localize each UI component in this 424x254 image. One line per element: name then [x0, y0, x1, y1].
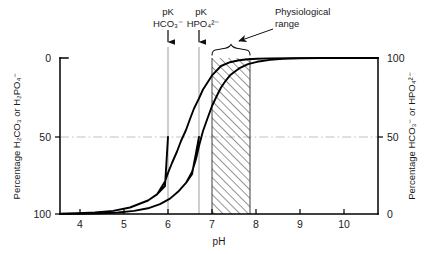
x-tick-label-7: 7	[209, 218, 215, 230]
y-label-right-100: 100	[387, 52, 405, 64]
physiological-range-line2: range	[275, 18, 299, 29]
right-axis-title: Percentage HCO₃⁻ or HPO₄²⁻	[406, 72, 417, 200]
pk-hco3-label-line2: HCO₃⁻	[153, 18, 183, 29]
pk-hpo4-label-line1: pK	[195, 6, 207, 17]
pk-hpo4-label-line2: HPO₄²⁻	[187, 18, 220, 29]
x-tick-label-10: 10	[338, 218, 350, 230]
y-label-right-50: 50	[387, 131, 399, 143]
y-label-left-50: 50	[39, 131, 51, 143]
x-tick-label-6: 6	[165, 218, 171, 230]
ph-titration-chart: 4 5 6 7 8 9 10 0 50 100 100 50 0 pH Perc…	[0, 0, 424, 254]
x-tick-label-9: 9	[297, 218, 303, 230]
x-tick-label-5: 5	[121, 218, 127, 230]
x-tick-label-8: 8	[253, 218, 259, 230]
left-axis-title: Percentage H₂CO₃ or H₂PO₄⁻	[11, 73, 22, 200]
y-label-right-0: 0	[387, 208, 393, 220]
physiological-range-line1: Physiological	[275, 6, 330, 17]
y-label-left-100: 100	[33, 208, 51, 220]
titration-curve-figure: 4 5 6 7 8 9 10 0 50 100 100 50 0 pH Perc…	[0, 0, 424, 254]
y-label-left-0: 0	[45, 52, 51, 64]
x-axis-title: pH	[213, 236, 226, 247]
hatch-fill	[212, 58, 250, 214]
pk-hco3-label-line1: pK	[162, 6, 174, 17]
physiological-range-band	[212, 58, 250, 214]
x-tick-label-4: 4	[77, 218, 83, 230]
